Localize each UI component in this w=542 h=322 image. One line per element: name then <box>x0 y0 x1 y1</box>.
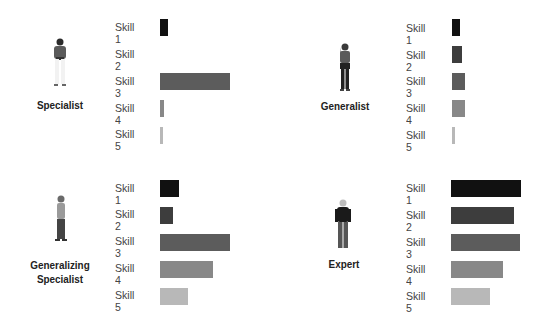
skill-bar <box>160 234 230 251</box>
skill-label: Skill 2 <box>406 209 425 233</box>
skill-label: Skill 4 <box>115 102 134 126</box>
person-specialist-icon <box>50 38 70 90</box>
skill-label: Skill 1 <box>115 21 134 45</box>
skill-bar <box>451 207 514 224</box>
skill-label: Skill 5 <box>406 129 425 153</box>
skill-bar <box>452 127 455 144</box>
skill-bar <box>160 19 168 36</box>
skill-label: Skill 4 <box>406 263 425 287</box>
skill-bar <box>160 73 230 90</box>
skill-bar <box>160 261 213 278</box>
role-label-generalizing-specialist: Generalizing Specialist <box>11 258 110 286</box>
skill-bar <box>452 46 462 63</box>
skill-label: Skill 4 <box>115 262 134 286</box>
person-expert-icon <box>334 199 352 251</box>
skill-label: Skill 1 <box>115 182 134 206</box>
skill-label: Skill 5 <box>115 289 134 313</box>
skill-label: Skill 3 <box>115 235 134 259</box>
skill-bar <box>451 234 520 251</box>
skill-bar <box>160 100 164 117</box>
skill-label: Skill 3 <box>406 75 425 99</box>
role-label-expert: Expert <box>308 257 380 271</box>
role-label-specialist: Specialist <box>24 98 96 112</box>
role-label-generalist: Generalist <box>309 99 381 113</box>
skill-label: Skill 2 <box>115 48 134 72</box>
skill-bar <box>160 127 163 144</box>
skill-label: Skill 5 <box>115 128 134 152</box>
skill-bar <box>160 288 188 305</box>
skill-bar <box>451 180 521 197</box>
skill-bar <box>452 19 460 36</box>
skill-label: Skill 2 <box>406 49 425 73</box>
person-generalizing-specialist-icon <box>53 195 69 247</box>
skill-label: Skill 3 <box>115 75 134 99</box>
skill-label: Skill 1 <box>406 182 425 206</box>
skill-bar <box>160 207 173 224</box>
skill-label: Skill 2 <box>115 208 134 232</box>
skill-bar <box>452 100 465 117</box>
skill-label: Skill 5 <box>406 290 425 314</box>
skill-label: Skill 1 <box>406 22 425 46</box>
skill-bar <box>452 73 465 90</box>
skill-label: Skill 3 <box>406 236 425 260</box>
role-label-line2: Specialist <box>11 272 110 286</box>
skill-bar <box>451 288 490 305</box>
person-generalist-icon <box>337 43 353 95</box>
role-label-line1: Generalizing <box>11 258 110 272</box>
skill-bar <box>451 261 503 278</box>
skill-bar <box>160 180 179 197</box>
skill-label: Skill 4 <box>406 102 425 126</box>
